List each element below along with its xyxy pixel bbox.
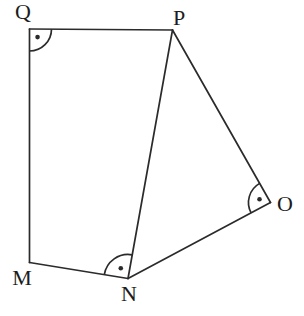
right-angle-arc-Q <box>30 29 52 51</box>
geometry-figure: QPONM <box>0 0 304 316</box>
vertex-label-P: P <box>173 5 185 30</box>
vertex-label-O: O <box>277 191 293 216</box>
edge-PO <box>173 30 271 203</box>
edge-ON <box>128 203 271 279</box>
vertex-label-Q: Q <box>15 0 31 24</box>
vertex-label-M: M <box>12 265 32 290</box>
edge-NP <box>128 30 173 279</box>
right-angle-dot-O <box>257 197 262 202</box>
right-angle-dot-Q <box>35 35 40 40</box>
geometry-diagram: QPONM <box>0 0 304 316</box>
vertex-label-N: N <box>121 281 137 306</box>
right-angle-dot-N <box>118 266 123 271</box>
edge-NM <box>30 263 129 279</box>
right-angle-arc-N <box>104 255 132 275</box>
